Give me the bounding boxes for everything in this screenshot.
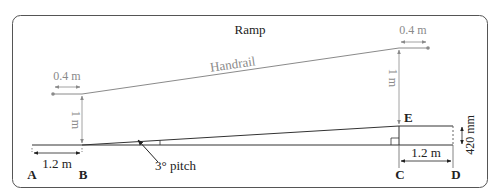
left-landing-label: 1.2 m [42, 156, 72, 171]
handrail-right-end-dot [426, 46, 430, 50]
left-overhang-label: 0.4 m [53, 69, 81, 83]
right-angle-marker [391, 138, 399, 145]
rise-label: 420 mm [463, 115, 477, 155]
right-landing-label: 1.2 m [411, 145, 441, 160]
point-c-label: C [395, 167, 404, 182]
pitch-label: 3° pitch [155, 158, 196, 173]
handrail-left-end-dot [51, 92, 55, 96]
right-overhang-label: 0.4 m [399, 23, 427, 37]
point-e-label: E [404, 110, 413, 125]
point-d-label: D [451, 167, 460, 182]
ramp-slope [82, 126, 399, 145]
left-height-label: 1 m [69, 111, 83, 130]
diagram-frame [13, 16, 488, 188]
ramp-diagram: Ramp 3° pitch Handrail 0.4 m 0.4 m 1 m 1… [0, 0, 501, 196]
handrail-label: Handrail [209, 53, 257, 74]
right-height-label: 1 m [386, 69, 400, 88]
point-a-label: A [27, 167, 37, 182]
diagram-title: Ramp [234, 22, 265, 37]
point-b-label: B [79, 167, 88, 182]
